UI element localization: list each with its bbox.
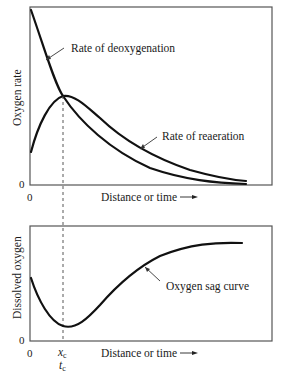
deoxygenation-label: Rate of deoxygenation: [71, 42, 175, 55]
top-plot: Rate of deoxygenation Rate of reaeration…: [11, 7, 272, 203]
top-ylabel: Oxygen rate: [11, 69, 24, 126]
bottom-ylabel: Dissolved oxygen: [11, 236, 24, 319]
bottom-y-origin: 0: [19, 334, 25, 346]
sag-label: Oxygen sag curve: [166, 280, 249, 293]
bottom-xlabel-arrow-icon: [180, 351, 198, 355]
critical-x-label: xc: [57, 346, 67, 360]
top-xlabel-arrow-icon: [180, 195, 198, 199]
oxygen-sag-diagram: Rate of deoxygenation Rate of reaeration…: [0, 0, 282, 380]
bottom-plot: Oxygen sag curve Dissolved oxygen 0 0 xc…: [11, 226, 272, 373]
reaeration-label: Rate of reaeration: [162, 130, 245, 142]
top-xlabel: Distance or time: [101, 191, 177, 203]
critical-t-label: tc: [59, 359, 66, 373]
bottom-x-origin: 0: [27, 347, 33, 359]
top-x-origin: 0: [27, 191, 33, 203]
bottom-xlabel: Distance or time: [101, 347, 177, 359]
top-y-origin: 0: [19, 178, 25, 190]
reaeration-arrowhead-icon: [140, 144, 145, 149]
